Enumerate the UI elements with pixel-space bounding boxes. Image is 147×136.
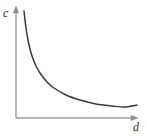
cost-distance-figure: c d (0, 0, 147, 136)
x-axis-label: d (133, 121, 139, 133)
plot-area (0, 0, 147, 136)
axes-group (13, 6, 139, 122)
cost-vs-distance-curve (24, 11, 137, 107)
y-axis-arrow-icon (13, 6, 19, 14)
y-axis-label: c (3, 7, 8, 19)
data-curve-group (24, 11, 137, 107)
